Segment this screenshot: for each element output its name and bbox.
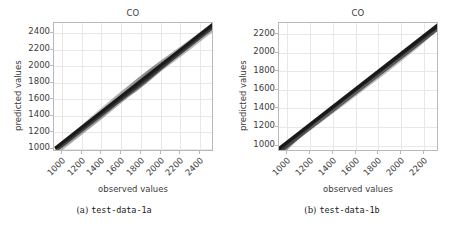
panel-b-y-tickmark-6 [275,33,278,34]
panel-a-x-tickmark-4 [140,151,141,154]
panel-a-x-tickmark-5 [160,151,161,154]
panel-a-y-tick-label-0: 1000 [10,143,50,152]
panel-b-x-tickmark-0 [286,151,287,154]
panel-a-x-tickmark-0 [61,151,62,154]
panel-b-y-tickmark-4 [275,70,278,71]
caption-b-index: (b) [304,205,316,215]
panel-b-y-tick-label-5: 2000 [235,47,275,56]
panel-a-x-tickmark-2 [100,151,101,154]
panel-a-y-tickmark-4 [50,82,53,83]
panel-a-plot-area [53,22,213,151]
panel-a-y-tickmark-7 [50,32,53,33]
panel-b-scatter-svg [278,22,438,151]
caption-a-text: test-data-1a [91,205,151,215]
panel-b-x-tickmark-2 [332,151,333,154]
panel-b-x-tickmark-4 [377,151,378,154]
panel-b-x-tickmark-1 [309,151,310,154]
caption-b-text: test-data-1b [319,205,379,215]
panel-a-y-tick-label-6: 2200 [10,44,50,53]
caption-a-index: (a) [77,205,89,215]
panel-b-x-tickmark-5 [400,151,401,154]
panel-a-y-tickmark-6 [50,49,53,50]
panel-a-y-tick-label-5: 2000 [10,61,50,70]
panel-a-scatter-band [53,22,213,151]
panel-b-x-tickmark-6 [423,151,424,154]
panel-b-y-tickmark-0 [275,145,278,146]
panel-b-y-tick-label-0: 1000 [235,140,275,149]
panel-a-chart-title: CO [53,8,213,18]
panel-a-scatter-svg [53,22,213,151]
panel-a: CO predicted values [0,0,228,200]
panel-a-y-tick-label-1: 1200 [10,127,50,136]
panel-b-chart-title: CO [278,8,438,18]
panel-b-y-tick-label-2: 1400 [235,103,275,112]
panel-a-data-layer [54,23,212,150]
panel-b-plot-area [278,22,438,151]
panel-b-y-tick-label-6: 2200 [235,29,275,38]
caption-panel-b: (b) test-data-1b [228,203,456,217]
panel-b: CO predicted values [228,0,456,200]
panel-a-y-tickmark-2 [50,115,53,116]
panel-b-y-tick-label-3: 1600 [235,84,275,93]
panel-a-x-tickmark-3 [120,151,121,154]
panel-a-y-tickmark-5 [50,65,53,66]
panel-a-y-tick-label-3: 1600 [10,94,50,103]
figure-container: CO predicted values [0,0,456,234]
panel-b-y-tick-label-4: 1800 [235,66,275,75]
panel-a-y-tick-label-4: 1800 [10,77,50,86]
panel-b-scatter-band [278,22,438,151]
panel-b-x-tickmark-3 [355,151,356,154]
panel-b-y-tickmark-5 [275,52,278,53]
panel-a-y-tickmark-1 [50,131,53,132]
panel-b-y-tickmark-1 [275,126,278,127]
panel-a-x-tickmark-1 [81,151,82,154]
panel-b-data-layer [279,23,437,150]
panel-a-x-tickmark-6 [179,151,180,154]
panel-b-y-tick-label-1: 1200 [235,121,275,130]
panel-a-y-tick-label-2: 1400 [10,110,50,119]
panel-a-y-tickmark-3 [50,98,53,99]
panel-b-y-tickmark-3 [275,89,278,90]
panel-a-x-tickmark-7 [199,151,200,154]
panel-a-y-tickmark-0 [50,148,53,149]
caption-panel-a: (a) test-data-1a [0,203,228,217]
panel-b-y-tickmark-2 [275,107,278,108]
panel-a-y-tick-label-7: 2400 [10,27,50,36]
